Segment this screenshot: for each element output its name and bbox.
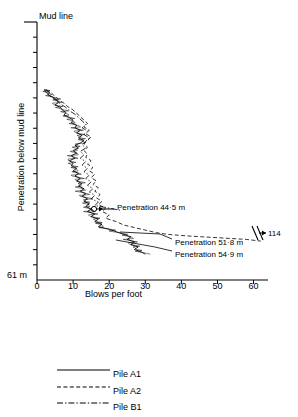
- x-tick-label: 50: [212, 281, 222, 291]
- y-axis-label: Penetration below mud line: [16, 87, 26, 227]
- x-tick-label: 10: [68, 281, 78, 291]
- depth-end-label: 61 m: [7, 270, 27, 280]
- mud-line-label: Mud line: [39, 11, 73, 21]
- x-tick-label: 0: [34, 281, 39, 291]
- legend-label-pile-a1: Pile A1: [113, 369, 141, 379]
- annotation-penetration-54-9: Penetration 54·9 m: [175, 250, 243, 259]
- x-tick-label: 60: [249, 281, 259, 291]
- annotation-offscale-114: 114: [268, 229, 281, 238]
- annotation-penetration-44-5: Penetration 44·5 m: [117, 203, 185, 212]
- annotation-penetration-51-8: Penetration 51·8 m: [175, 238, 243, 247]
- x-tick-label: 30: [140, 281, 150, 291]
- x-tick-label: 40: [176, 281, 186, 291]
- x-tick-label: 20: [104, 281, 114, 291]
- legend-label-pile-a2: Pile A2: [113, 386, 141, 396]
- legend-label-pile-b1: Pile B1: [113, 402, 142, 412]
